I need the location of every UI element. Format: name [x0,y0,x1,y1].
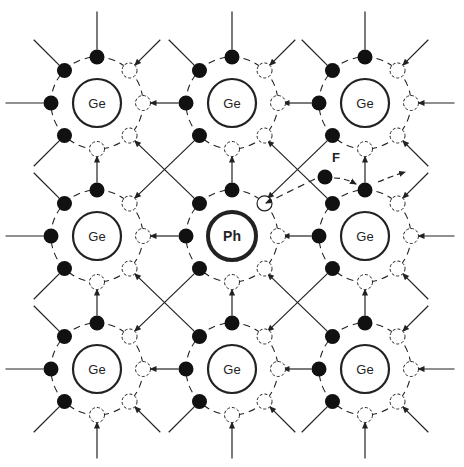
bond-stub [135,40,160,65]
bond-line [302,40,327,65]
bond-line [34,40,59,65]
electron-icon [179,96,194,111]
electron-icon [225,316,240,331]
electron-icon [358,316,373,331]
atom-label: Ge [88,229,105,244]
hole-icon [225,408,240,423]
electron-icon [90,316,105,331]
electron-icon [57,128,72,143]
hole-icon [122,128,137,143]
electron-icon [325,329,340,344]
hole-icon [90,142,105,157]
bond-stub [403,306,428,331]
electron-icon [57,63,72,78]
hole-icon [390,394,405,409]
hole-icon [271,229,286,244]
hole-icon [122,329,137,344]
hole-icon [122,196,137,211]
bond-stub [270,40,295,65]
electron-icon [358,183,373,198]
hole-icon [90,275,105,290]
germanium-atom: Ge [44,316,151,423]
bond-line [169,40,194,65]
bond-stub [135,407,160,432]
hole-icon [90,408,105,423]
lattice-diagram: GeGeGeGePhGeGeGeGe F F [0,0,464,467]
electron-icon [192,128,207,143]
bond-stub [270,407,295,432]
electron-icon [57,329,72,344]
free-electron-path [378,172,405,182]
germanium-atom: Ge [312,316,419,423]
electron-icon [325,196,340,211]
lattice-svg: GeGeGeGePhGeGeGeGe F [0,0,464,467]
electron-icon [179,229,194,244]
bond-stub [403,141,428,166]
electron-icon [225,50,240,65]
electron-icon [57,196,72,211]
bond-line [302,407,327,432]
atom-label: Ge [356,362,373,377]
free-electron-icon [318,170,333,185]
germanium-atom: Ge [44,50,151,157]
electron-icon [312,96,327,111]
hole-icon [136,362,151,377]
electron-icon [57,261,72,276]
hole-icon [257,128,272,143]
hole-icon [136,229,151,244]
electron-icon [192,196,207,211]
bond-line [34,141,59,166]
bond-stub [403,40,428,65]
electron-icon [192,329,207,344]
atom-label: Ge [88,96,105,111]
atom-label: Ge [223,362,240,377]
electron-icon [192,63,207,78]
hole-icon [390,261,405,276]
germanium-atom: Ge [312,50,419,157]
hole-icon [225,275,240,290]
hole-icon [225,142,240,157]
germanium-atom: Ge [179,316,286,423]
bond-line [34,274,59,299]
bond-line [34,407,59,432]
atom-label: Ge [356,229,373,244]
bond-stub [403,407,428,432]
electron-icon [312,362,327,377]
hole-icon [358,408,373,423]
bond-stub [403,173,428,198]
electron-icon [325,128,340,143]
hole-icon [390,128,405,143]
electron-icon [325,63,340,78]
electron-icon [179,362,194,377]
hole-icon [390,329,405,344]
electron-icon [90,50,105,65]
electron-icon [225,183,240,198]
hole-icon [404,362,419,377]
free-electron-path [334,178,356,184]
electron-icon [325,394,340,409]
hole-icon [122,63,137,78]
atom-label: Ge [88,362,105,377]
electron-icon [192,261,207,276]
hole-icon [358,275,373,290]
electron-icon [325,261,340,276]
germanium-atom: Ge [44,183,151,290]
hole-icon [404,96,419,111]
hole-icon [136,96,151,111]
free-electron-label-text: F [332,150,340,165]
hole-icon [257,63,272,78]
electron-icon [57,394,72,409]
germanium-atom: Ge [179,50,286,157]
electron-icon [44,229,59,244]
free-electron-group: F [266,150,405,203]
hole-icon [390,63,405,78]
hole-icon [271,96,286,111]
bond-line [169,407,194,432]
hole-icon [390,196,405,211]
hole-icon [358,142,373,157]
free-electron-path [266,179,315,203]
bond-line [34,173,59,198]
hole-icon [404,229,419,244]
electron-icon [312,229,327,244]
atom-label: Ph [223,228,241,244]
